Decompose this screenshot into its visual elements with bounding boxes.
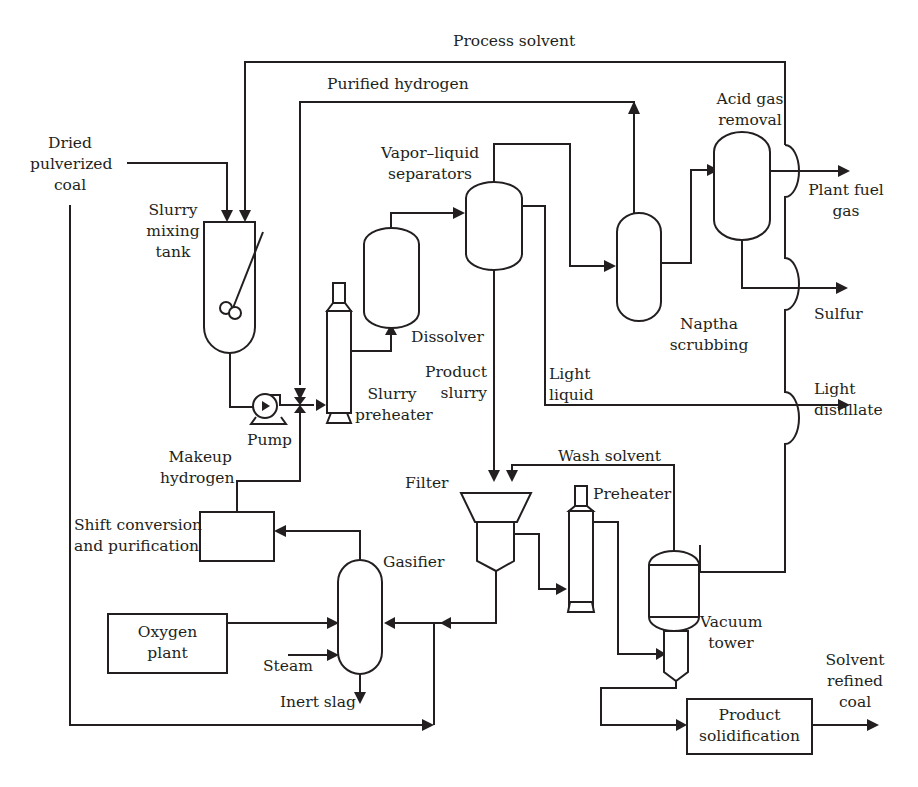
oxygen-plant-label: Oxygen plant	[108, 622, 227, 664]
acid-gas-removal-column	[714, 132, 770, 240]
inert-slag-label: Inert slag	[280, 692, 356, 713]
arrow-icon	[316, 399, 326, 411]
tank-outlet-line	[230, 353, 253, 407]
light-liquid-label: Light liquid	[549, 364, 594, 406]
arrow-icon	[453, 207, 465, 219]
purified-hydrogen-label: Purified hydrogen	[327, 74, 469, 95]
slurry-preheater	[327, 311, 351, 413]
dissolver-label: Dissolver	[411, 327, 484, 348]
preheater-to-dissolver-line	[351, 335, 391, 351]
preheater-label: Preheater	[593, 484, 671, 505]
sulfur-line	[742, 240, 836, 288]
arrow-icon	[440, 617, 451, 629]
arrow-icon	[239, 210, 251, 222]
naptha-scrubbing-label: Naptha scrubbing	[664, 314, 754, 356]
arrow-icon	[422, 719, 434, 731]
acid-gas-removal-label: Acid gas removal	[705, 89, 795, 131]
wash-solvent-label: Wash solvent	[558, 446, 661, 467]
vapor-liquid-separators-label: Vapor–liquid separators	[375, 143, 485, 185]
vapor-liquid-separator	[466, 182, 522, 270]
vacuum-tower	[649, 551, 699, 631]
preheater-stack	[575, 486, 587, 506]
arrow-icon	[867, 719, 879, 731]
filter-body	[477, 522, 514, 571]
arrow-icon	[384, 617, 395, 629]
agitator-blade	[229, 307, 241, 319]
vacuum-bottoms-line	[601, 681, 676, 725]
product-slurry-label: Product slurry	[420, 362, 487, 404]
shift-conversion-label: Shift conversion and purification	[74, 515, 202, 557]
dissolver	[364, 228, 419, 328]
slurry-preheater-top	[327, 303, 351, 311]
slurry-preheater-label: Slurry preheater	[355, 384, 429, 426]
filter-label: Filter	[405, 473, 448, 494]
naptha-scrubber	[617, 213, 661, 321]
steam-label: Steam	[263, 656, 313, 677]
gasifier-label: Gasifier	[383, 552, 444, 573]
process-flow-diagram: Process solvent Purified hydrogen Dried …	[0, 0, 918, 787]
pump-label: Pump	[247, 430, 292, 451]
slurry-preheater-stack	[333, 283, 345, 303]
filter-funnel	[461, 493, 531, 522]
arrow-icon	[836, 282, 848, 294]
gasifier-to-shift-line	[285, 531, 360, 560]
gasifier	[338, 560, 382, 674]
valve-icon	[294, 397, 306, 405]
preheater	[569, 511, 593, 612]
dried-coal-label: Dried pulverized coal	[30, 133, 110, 196]
arrow-icon	[506, 470, 518, 482]
slurry-mixing-tank-label: Slurry mixing tank	[145, 200, 201, 263]
shift-conversion-box	[200, 512, 274, 561]
slurry-preheater-base	[327, 413, 351, 423]
arrow-icon	[556, 583, 567, 595]
scrubber-to-acid-gas-line	[661, 170, 707, 263]
slurry-mixing-tank	[204, 222, 255, 353]
product-solidification-label: Product solidification	[687, 705, 812, 747]
vacuum-tower-label: Vacuum tower	[700, 612, 762, 654]
valve-icon	[294, 405, 306, 413]
dissolver-to-separator-line	[391, 213, 453, 228]
filter-residue-line	[390, 571, 496, 623]
plant-fuel-gas-label: Plant fuel gas	[806, 180, 886, 222]
vacuum-tower-bottom	[664, 631, 688, 681]
light-distillate-label: Light distillate	[814, 379, 883, 421]
arrow-icon	[274, 525, 286, 537]
arrow-icon	[488, 470, 500, 482]
solvent-refined-coal-label: Solvent refined coal	[818, 650, 892, 713]
makeup-hydrogen-line	[237, 413, 300, 512]
arrow-icon	[676, 719, 687, 731]
process-solvent-label: Process solvent	[453, 31, 575, 52]
arrow-icon	[604, 260, 616, 272]
sulfur-label: Sulfur	[814, 304, 863, 325]
preheater-base	[568, 602, 594, 612]
arrow-icon	[838, 165, 850, 177]
makeup-hydrogen-label: Makeup hydrogen	[160, 447, 232, 489]
filter-to-preheater-line	[514, 534, 556, 589]
arrow-icon	[221, 210, 233, 222]
